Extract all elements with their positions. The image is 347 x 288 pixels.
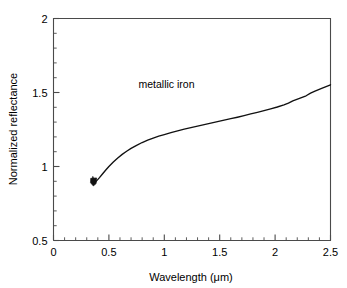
reflectance-spectrum-chart: 00.511.522.5 0.511.52 metallic iron Wave… [0, 0, 347, 288]
x-tick-label: 2 [272, 246, 278, 258]
x-tick-label: 1.5 [212, 246, 227, 258]
chart-annotations: metallic iron [139, 78, 195, 90]
x-tick-label: 2.5 [323, 246, 338, 258]
x-tick-label: 1 [161, 246, 167, 258]
x-axis-label: Wavelength (μm) [149, 271, 233, 283]
x-tick-label: 0.5 [101, 246, 116, 258]
y-tick-label: 2 [41, 13, 47, 25]
y-tick-label: 1.5 [32, 87, 47, 99]
annotation-metallic-iron: metallic iron [139, 78, 195, 90]
y-axis-label: Normalized reflectance [7, 73, 19, 186]
y-tick-label: 1 [41, 161, 47, 173]
y-tick-label: 0.5 [32, 235, 47, 247]
chart-figure: 00.511.522.5 0.511.52 metallic iron Wave… [0, 0, 347, 288]
x-tick-label: 0 [50, 246, 56, 258]
